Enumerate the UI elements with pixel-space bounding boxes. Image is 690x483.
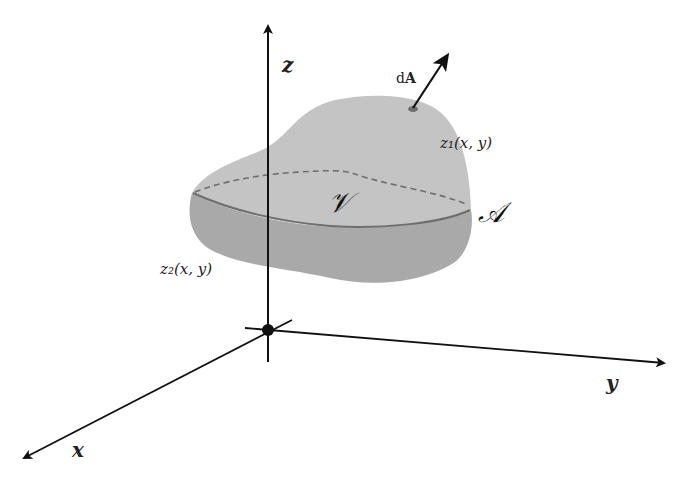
y-axis xyxy=(245,328,664,363)
area-element-A: A xyxy=(404,70,417,86)
upper-surface-label: z₁(x, y) xyxy=(439,134,492,152)
surface-label: 𝒜 xyxy=(478,196,512,229)
normal-vector-arrow xyxy=(413,56,447,108)
origin-point xyxy=(262,324,274,336)
surface-volume-diagram: z y x dA z₁(x, y) z₂(x, y) 𝒱 𝒜 xyxy=(0,0,690,483)
x-axis-label: x xyxy=(71,438,85,462)
y-axis-label: y xyxy=(605,371,619,395)
z-axis-label: z xyxy=(281,53,294,77)
area-element-label: dA xyxy=(396,70,417,86)
x-axis xyxy=(24,320,292,458)
area-element-d: d xyxy=(396,70,405,86)
lower-surface-label: z₂(x, y) xyxy=(159,260,212,278)
